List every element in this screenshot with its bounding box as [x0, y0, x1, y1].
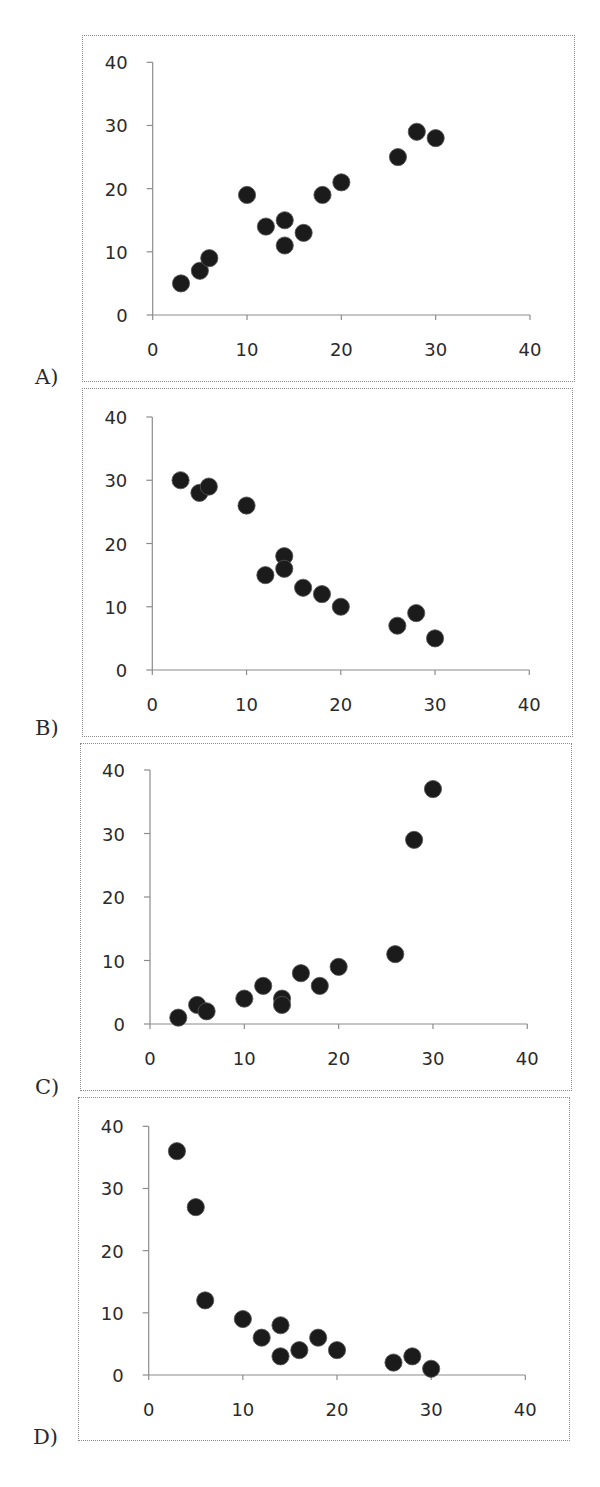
y-tick-label: 20: [101, 1241, 124, 1262]
data-point: [328, 1342, 345, 1359]
x-tick-label: 0: [143, 1399, 154, 1420]
data-point: [404, 1348, 421, 1365]
x-tick-label: 20: [326, 1399, 349, 1420]
x-tick-label: 40: [514, 1399, 537, 1420]
data-point: [291, 1342, 308, 1359]
data-point: [168, 1143, 185, 1160]
data-point: [187, 1199, 204, 1216]
data-point: [253, 1329, 270, 1346]
data-point: [272, 1317, 289, 1334]
y-tick-label: 40: [101, 1116, 124, 1137]
x-tick-label: 30: [420, 1399, 443, 1420]
y-tick-label: 10: [101, 1303, 124, 1324]
data-point: [385, 1354, 402, 1371]
data-point: [272, 1348, 289, 1365]
data-point: [310, 1329, 327, 1346]
panel-d-scatter-plot: 010203040010203040: [0, 0, 600, 1487]
data-point: [234, 1310, 251, 1327]
data-point: [197, 1292, 214, 1309]
y-tick-label: 30: [101, 1178, 124, 1199]
x-tick-label: 10: [231, 1399, 254, 1420]
y-tick-label: 0: [112, 1365, 123, 1386]
data-point: [423, 1360, 440, 1377]
